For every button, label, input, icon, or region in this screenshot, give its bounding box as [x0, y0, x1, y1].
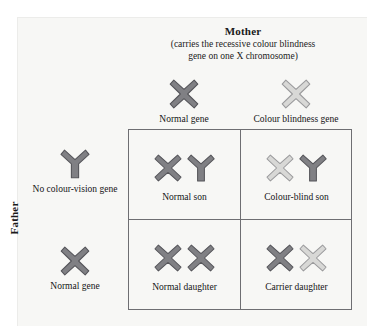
- x-chromosome-blind-icon: [297, 242, 329, 274]
- mother-note-line-1: (carries the recessive colour blindness: [128, 39, 358, 50]
- father-gamete-y-label: No colour-vision gene: [22, 184, 128, 194]
- offspring-label: Normal son: [162, 192, 207, 202]
- offspring-label: Colour-blind son: [264, 192, 328, 202]
- mother-heading-block: Mother (carries the recessive colour bli…: [128, 25, 358, 62]
- offspring-cell-normal-daughter: Normal daughter: [129, 220, 240, 309]
- father-title: Father: [8, 190, 20, 246]
- offspring-cell-colour-blind-son: Colour-blind son: [241, 130, 352, 219]
- mother-gamete-blind-label: Colour blindness gene: [240, 114, 352, 124]
- y-chromosome-normal-icon: [22, 146, 128, 182]
- x-chromosome-normal-icon: [152, 152, 184, 184]
- x-chromosome-normal-icon: [264, 242, 296, 274]
- mother-gamete-normal-label: Normal gene: [128, 114, 240, 124]
- x-chromosome-blind-icon: [264, 152, 296, 184]
- offspring-label: Carrier daughter: [265, 282, 328, 292]
- offspring-chromosome-pair: [264, 238, 329, 278]
- offspring-chromosome-pair: [264, 148, 329, 188]
- mother-gamete-blind: Colour blindness gene: [240, 76, 352, 124]
- x-chromosome-normal-icon: [128, 76, 240, 112]
- offspring-cell-carrier-daughter: Carrier daughter: [241, 220, 352, 309]
- father-gamete-y: No colour-vision gene: [22, 146, 128, 194]
- y-chromosome-normal-icon: [297, 152, 329, 184]
- mother-note-line-2: gene on one X chromosome): [128, 51, 358, 62]
- x-chromosome-normal-icon: [22, 243, 128, 279]
- x-chromosome-normal-icon: [152, 242, 184, 274]
- genetics-punnett-diagram: Mother (carries the recessive colour bli…: [0, 0, 370, 329]
- father-gamete-x: Normal gene: [22, 243, 128, 291]
- y-chromosome-normal-icon: [185, 152, 217, 184]
- offspring-chromosome-pair: [152, 148, 217, 188]
- punnett-grid: Normal son Colour-blind son: [128, 129, 352, 310]
- offspring-chromosome-pair: [152, 238, 217, 278]
- mother-title: Mother: [128, 25, 358, 38]
- x-chromosome-blind-icon: [240, 76, 352, 112]
- father-gamete-x-label: Normal gene: [22, 281, 128, 291]
- x-chromosome-normal-icon: [185, 242, 217, 274]
- mother-gamete-normal: Normal gene: [128, 76, 240, 124]
- offspring-cell-normal-son: Normal son: [129, 130, 240, 219]
- offspring-label: Normal daughter: [152, 282, 217, 292]
